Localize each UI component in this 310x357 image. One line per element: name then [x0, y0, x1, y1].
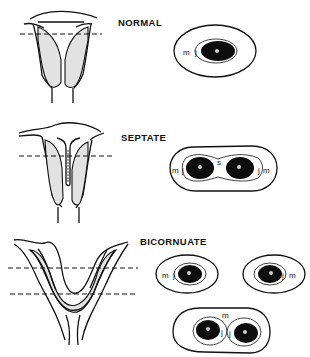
- label-m: m: [162, 271, 169, 280]
- bicornuate-cross-section-left: m j: [156, 255, 218, 293]
- normal-title: NORMAL: [118, 17, 162, 28]
- label-m-right: m: [263, 166, 270, 175]
- label-s: s: [217, 158, 221, 167]
- septate-panel: SEPTATE m j s j m: [19, 123, 277, 223]
- uterine-anomalies-diagram: NORMAL m j SEPTATE: [0, 0, 310, 357]
- bicornuate-uterus-drawing: [8, 240, 138, 345]
- bicornuate-title: BICORNUATE: [140, 236, 207, 247]
- label-m: m: [222, 311, 229, 320]
- label-j-right: j: [257, 166, 260, 175]
- normal-uterus-drawing: [20, 11, 102, 103]
- normal-panel: NORMAL m j: [20, 11, 256, 103]
- septate-uterus-drawing: [19, 123, 115, 223]
- septate-cross-section: m j s j m: [170, 146, 277, 191]
- label-m-left: m: [172, 166, 179, 175]
- label-j: j: [281, 271, 284, 280]
- label-j-right: j: [228, 329, 231, 338]
- label-m: m: [289, 271, 296, 280]
- label-j-left: j: [220, 328, 223, 337]
- label-m: m: [183, 48, 190, 57]
- septate-title: SEPTATE: [121, 132, 166, 143]
- label-j-left: j: [181, 166, 184, 175]
- label-j: j: [194, 48, 197, 57]
- label-j: j: [172, 271, 175, 280]
- normal-cross-section: m j: [174, 25, 256, 77]
- bicornuate-panel: BICORNUATE m j j m m j j: [8, 236, 305, 353]
- bicornuate-cross-section-lower: m j j: [173, 308, 270, 353]
- bicornuate-cross-section-right: j m: [243, 255, 305, 293]
